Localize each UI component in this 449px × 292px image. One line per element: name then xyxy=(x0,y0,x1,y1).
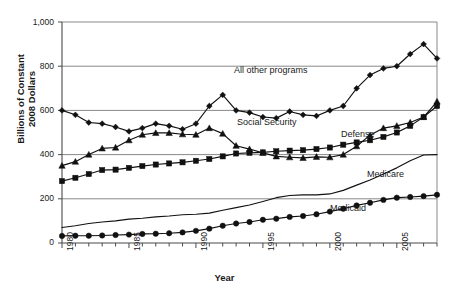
plot-area xyxy=(0,0,449,292)
series-label-social-security: Social Security xyxy=(237,117,297,127)
series-medicare xyxy=(62,155,437,228)
y-tick-marks xyxy=(58,22,62,243)
series-label-defense: Defense xyxy=(341,129,375,139)
series-label-medicare: Medicare xyxy=(367,169,404,179)
series-label-medicaid: Medicaid xyxy=(330,203,366,213)
chart-figure: Billions of Constant 2008 Dollars 0 200 … xyxy=(0,0,449,292)
series-defense xyxy=(59,98,440,168)
x-tick-marks xyxy=(62,243,437,248)
series-label-all-other-programs: All other programs xyxy=(234,65,308,75)
axis-lines xyxy=(62,22,437,243)
